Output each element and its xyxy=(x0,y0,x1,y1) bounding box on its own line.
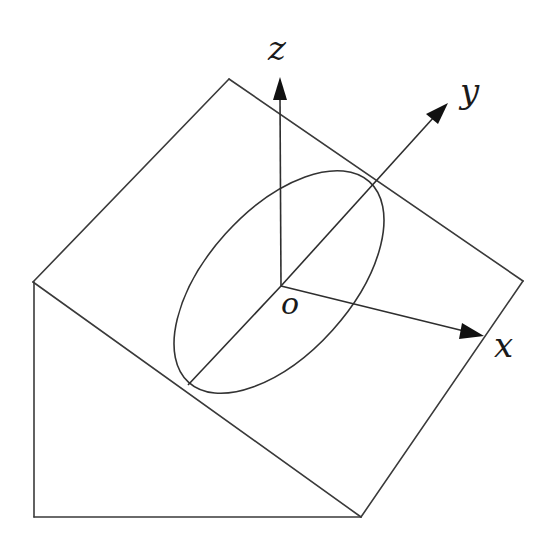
diagram-canvas: z y x o xyxy=(0,0,552,544)
inclined-plane-diagram: z y x o xyxy=(0,0,552,544)
origin-label: o xyxy=(281,286,299,321)
z-axis xyxy=(273,77,287,286)
z-label: z xyxy=(267,28,287,68)
plane-top-left-edge xyxy=(33,79,229,282)
plane-right-edge xyxy=(361,281,523,517)
z-arrow-head-icon xyxy=(273,77,287,100)
x-label: x xyxy=(494,325,513,365)
inclined-plane xyxy=(33,79,523,517)
ellipse-diameter-line xyxy=(188,286,281,385)
y-label: y xyxy=(458,71,480,111)
x-arrow-head-icon xyxy=(459,323,484,339)
y-arrow-head-icon xyxy=(426,103,448,124)
y-axis xyxy=(281,103,448,286)
x-axis xyxy=(281,286,484,339)
plane-diagonal-edge xyxy=(33,282,361,517)
